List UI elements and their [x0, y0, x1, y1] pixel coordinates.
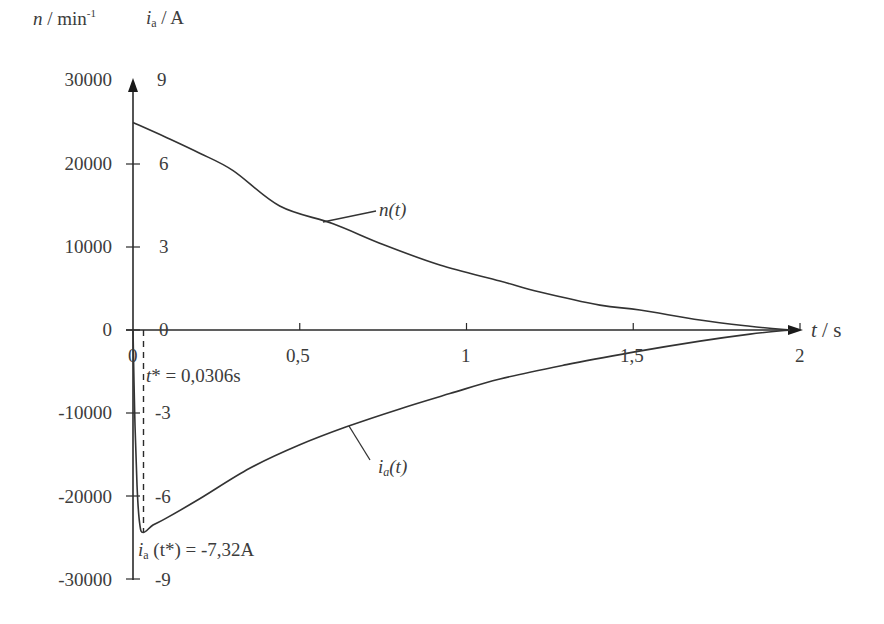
y-left-tick-label: -10000: [20, 403, 112, 422]
y-right-axis-title: ia / A: [146, 8, 184, 29]
x-tick-label: 0: [128, 346, 138, 365]
y-left-tick-label: 0: [20, 320, 112, 339]
ia-min-annotation: ia (t*) = -7,32A: [138, 540, 254, 561]
x-tick-label: 1: [461, 346, 471, 365]
n-curve-label: n(t): [379, 200, 406, 219]
y-right-tick-label: -9: [155, 570, 171, 589]
y-axis-arrowhead: [128, 78, 138, 92]
y-right-tick-label: 0: [159, 320, 169, 339]
ia-label-leader: [349, 426, 370, 460]
y-left-axis-title: n / min-1: [33, 8, 96, 28]
x-tick-label: 2: [795, 346, 805, 365]
n-label-leader: [323, 211, 376, 222]
y-left-tick-label: 20000: [20, 154, 112, 173]
y-right-tick-label: 6: [159, 154, 169, 173]
x-axis-arrowhead: [788, 325, 803, 335]
y-left-tick-label: -30000: [20, 570, 112, 589]
axes: [126, 78, 803, 580]
x-tick-label: 0,5: [286, 346, 310, 365]
ia-curve-label: ia(t): [378, 457, 407, 478]
x-tick-label: 1,5: [620, 346, 644, 365]
y-right-tick-label: 9: [157, 70, 167, 89]
y-left-tick-label: 30000: [20, 70, 112, 89]
x-axis-title: t / s: [811, 320, 841, 341]
tstar-annotation: t* = 0,0306s: [146, 366, 241, 385]
y-left-tick-label: 10000: [20, 237, 112, 256]
y-right-tick-label: 3: [159, 237, 169, 256]
y-right-tick-label: -3: [155, 403, 171, 422]
n-curve: [133, 123, 790, 331]
y-left-tick-label: -20000: [20, 487, 112, 506]
y-right-tick-label: -6: [155, 487, 171, 506]
chart-plot-area: [0, 0, 884, 624]
